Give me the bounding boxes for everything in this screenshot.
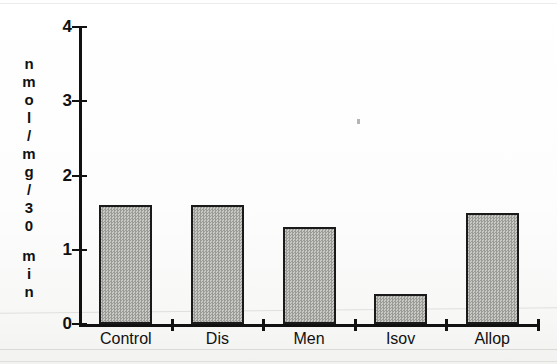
- y-axis-tick: [72, 100, 87, 102]
- bar-allop: [466, 213, 519, 324]
- bar-dis: [191, 205, 244, 324]
- y-axis-tick-label: 4: [46, 18, 72, 35]
- y-axis-tick: [72, 249, 87, 251]
- x-axis-label-dis: Dis: [172, 330, 264, 348]
- plot-area: 01234ControlDisMenIsovAllop: [0, 0, 557, 364]
- x-axis-label-isov: Isov: [355, 330, 447, 348]
- y-axis-tick: [72, 175, 87, 177]
- y-axis-tick-label: 3: [46, 92, 72, 109]
- chart-figure: n m o l / m g / 3 0 m i n 01234ControlDi…: [0, 0, 557, 364]
- x-axis-label-men: Men: [263, 330, 355, 348]
- x-axis-line: [79, 324, 539, 327]
- y-axis-line: [79, 27, 82, 327]
- y-axis-tick: [72, 26, 87, 28]
- bar-men: [283, 227, 336, 324]
- y-axis-tick-label: 1: [46, 241, 72, 258]
- y-axis-tick-label: 2: [46, 167, 72, 184]
- bar-control: [99, 205, 152, 324]
- x-axis-tick: [537, 319, 540, 331]
- y-axis-tick: [72, 323, 87, 325]
- y-axis-tick-label: 0: [46, 315, 72, 332]
- x-axis-label-control: Control: [80, 330, 172, 348]
- bar-isov: [374, 294, 427, 324]
- x-axis-label-allop: Allop: [446, 330, 538, 348]
